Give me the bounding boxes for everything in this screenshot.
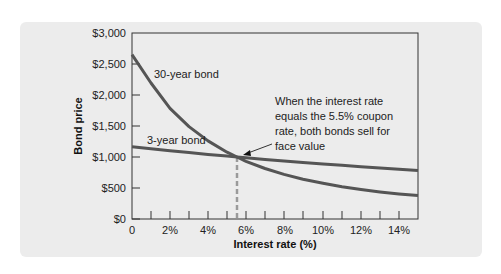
- y-tick-label: $3,000: [92, 27, 126, 39]
- x-tick-label: 14%: [388, 224, 410, 236]
- annotation-line: When the interest rate: [275, 95, 383, 107]
- annotation-line: equals the 5.5% coupon: [275, 110, 393, 122]
- annotation-arrow-line: [248, 144, 272, 153]
- x-tick-label: 10%: [312, 224, 334, 236]
- y-tick-label: $1,000: [92, 151, 126, 163]
- bond-price-chart: $0 $500 $1,000 $1,500 $2,000 $2,500 $3,0…: [0, 0, 501, 274]
- x-axis-title: Interest rate (%): [233, 238, 316, 250]
- series-30-year-label: 30-year bond: [154, 68, 219, 80]
- x-tick-label: 0: [129, 224, 135, 236]
- annotation-line: face value: [275, 140, 325, 152]
- series-3-year-label: 3-year bond: [147, 134, 206, 146]
- y-axis-title: Bond price: [72, 97, 84, 154]
- x-tick-label: 6%: [238, 224, 254, 236]
- annotation-line: rate, both bonds sell for: [275, 125, 390, 137]
- annotation: When the interest rate equals the 5.5% c…: [243, 95, 393, 156]
- x-axis: [151, 211, 399, 219]
- y-tick-label: $2,500: [92, 58, 126, 70]
- x-tick-label: 4%: [200, 224, 216, 236]
- x-tick-labels: 0 2% 4% 6% 8% 10% 12% 14%: [129, 224, 410, 236]
- x-tick-label: 2%: [162, 224, 178, 236]
- arrowhead-icon: [243, 150, 251, 156]
- y-tick-label: $500: [102, 182, 126, 194]
- y-tick-label: $1,500: [92, 120, 126, 132]
- y-tick-label: $0: [114, 213, 126, 225]
- y-tick-label: $2,000: [92, 89, 126, 101]
- x-tick-label: 12%: [350, 224, 372, 236]
- x-tick-label: 8%: [277, 224, 293, 236]
